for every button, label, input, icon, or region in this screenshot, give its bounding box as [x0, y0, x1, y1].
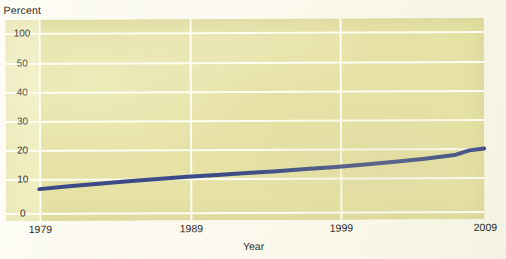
- series-line-chart: [6, 18, 485, 221]
- x-tick-label-2009: 2009: [474, 221, 497, 233]
- x-tick-label-1979: 1979: [29, 223, 52, 235]
- x-axis-title: Year: [0, 239, 506, 253]
- series-line-percent: [39, 149, 484, 190]
- x-tick-label-1989: 1989: [180, 222, 203, 234]
- figure-page: Percent 100 50 40 30 20 10 0: [0, 0, 506, 259]
- scan-container: Percent 100 50 40 30 20 10 0: [0, 0, 506, 259]
- y-axis-title: Percent: [3, 4, 41, 16]
- x-tick-label-1999: 1999: [330, 222, 353, 234]
- plot-area: 100 50 40 30 20 10 0: [6, 18, 485, 221]
